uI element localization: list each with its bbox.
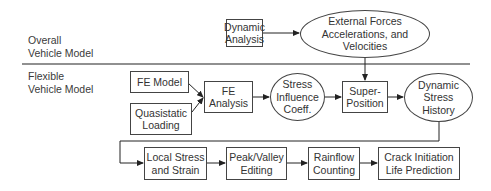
node-label: External Forces Accelerations, and Veloc…: [322, 15, 408, 53]
node-local-stress-strain: Local Stress and Strain: [144, 147, 207, 180]
node-fe-model: FE Model: [130, 71, 189, 93]
node-label: FE Analysis: [209, 85, 248, 110]
node-stress-influence-coeff: Stress Influence Coeff.: [270, 73, 325, 121]
node-label: Super- Position: [346, 85, 383, 110]
node-superposition: Super- Position: [342, 81, 388, 113]
node-dynamic-analysis: Dynamic Analysis: [226, 19, 263, 47]
section-label-overall: Overall Vehicle Model: [28, 34, 93, 60]
node-label: Peak/Valley Editing: [229, 151, 284, 176]
section-label-flexible: Flexible Vehicle Model: [28, 70, 93, 96]
node-rainflow-counting: Rainflow Counting: [308, 147, 360, 180]
node-label: Local Stress and Strain: [147, 151, 205, 176]
node-label: Crack Initiation Life Prediction: [384, 151, 453, 176]
node-label: Quasistatic Loading: [135, 107, 187, 132]
node-label: Dynamic Analysis: [224, 21, 265, 46]
node-label: FE Model: [137, 76, 182, 89]
node-fe-analysis: FE Analysis: [204, 81, 253, 113]
node-label: Dynamic Stress History: [418, 79, 459, 117]
node-label: Rainflow Counting: [313, 151, 355, 176]
node-quasistatic-loading: Quasistatic Loading: [130, 103, 192, 135]
node-crack-initiation: Crack Initiation Life Prediction: [378, 147, 460, 180]
flowchart-canvas: Overall Vehicle Model Flexible Vehicle M…: [0, 0, 491, 191]
node-peak-valley-editing: Peak/Valley Editing: [226, 147, 287, 180]
node-label: Stress Influence Coeff.: [276, 78, 319, 116]
node-external-forces: External Forces Accelerations, and Veloc…: [300, 10, 430, 58]
node-dynamic-stress-history: Dynamic Stress History: [404, 73, 473, 122]
